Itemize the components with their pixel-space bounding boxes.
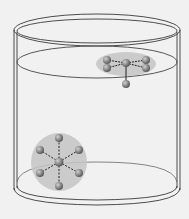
atom-icon: [55, 182, 63, 190]
atom-icon: [75, 169, 83, 177]
beaker-rim: [14, 14, 180, 46]
bulk-molecule: [31, 133, 87, 191]
beaker-diagram: [0, 0, 189, 219]
surface-molecule: [96, 52, 156, 88]
atom-icon: [36, 146, 44, 154]
atom-icon: [36, 169, 44, 177]
atom-icon: [75, 146, 83, 154]
atom-icon: [103, 64, 111, 72]
center-atom-icon: [55, 158, 64, 167]
atom-icon: [142, 64, 150, 72]
center-atom-icon: [122, 59, 130, 67]
atom-icon: [142, 56, 150, 64]
atom-icon: [55, 134, 63, 142]
atom-icon: [122, 80, 130, 88]
atom-icon: [103, 56, 111, 64]
